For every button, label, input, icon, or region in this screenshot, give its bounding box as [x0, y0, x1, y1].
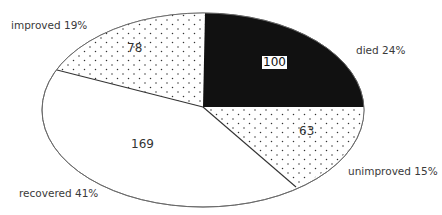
pie-chart	[0, 0, 442, 215]
value-died: 100	[262, 56, 287, 69]
value-recovered: 169	[131, 137, 154, 151]
label-recovered: recovered 41%	[19, 187, 98, 199]
value-improved: 78	[127, 41, 142, 55]
label-improved: improved 19%	[11, 19, 87, 31]
label-died: died 24%	[356, 44, 405, 56]
value-unimproved: 63	[299, 124, 314, 138]
label-unimproved: unimproved 15%	[348, 165, 438, 177]
